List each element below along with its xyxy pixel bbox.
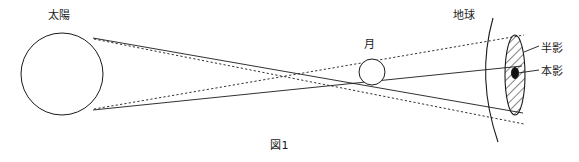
penumbra-leader-line: [524, 46, 539, 52]
moon-body: [359, 59, 385, 85]
sun-label: 太陽: [48, 9, 71, 22]
sun-body: [21, 33, 103, 115]
eclipse-figure: 太陽 月 地球 半影 本影 図1: [0, 0, 579, 162]
umbra-ray-upper: [94, 39, 524, 124]
earth-label: 地球: [453, 9, 476, 22]
umbra-region: [511, 67, 518, 78]
penumbra-label: 半影: [541, 42, 564, 55]
eclipse-diagram-canvas: [0, 0, 579, 162]
earth-surface-arc: [486, 18, 498, 142]
umbra-label: 本影: [541, 65, 564, 78]
umbra-ray-lines: [94, 35, 524, 124]
figure-caption: 図1: [270, 139, 289, 152]
penumbra-ray-lines: [93, 38, 523, 113]
penumbra-ray-upper: [93, 38, 523, 113]
moon-label: 月: [364, 38, 375, 51]
